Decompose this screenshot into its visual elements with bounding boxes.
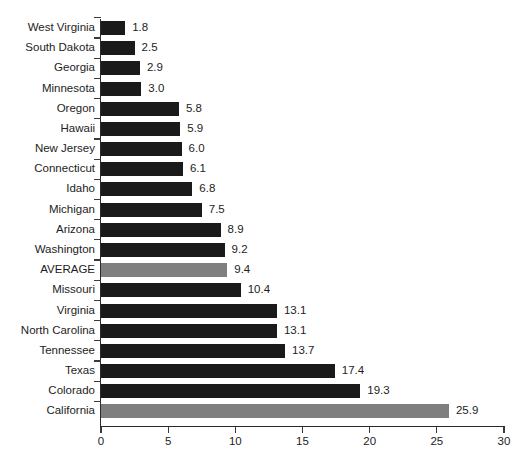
bar-chart: West Virginia1.8South Dakota2.5Georgia2.… xyxy=(0,0,531,474)
category-label: AVERAGE xyxy=(40,264,95,276)
category-label: Virginia xyxy=(57,305,95,317)
bar-value-label: 5.8 xyxy=(186,103,202,115)
bar-row: Colorado19.3 xyxy=(0,381,531,401)
bar xyxy=(101,263,227,277)
bar xyxy=(101,344,285,358)
category-label: Missouri xyxy=(52,285,95,297)
bar-row: New Jersey6.0 xyxy=(0,139,531,159)
x-axis-tick xyxy=(436,427,437,433)
x-axis-tick-label: 20 xyxy=(363,436,376,448)
category-label: Minnesota xyxy=(42,83,95,95)
bar-row: Hawaii5.9 xyxy=(0,119,531,139)
plot-area: West Virginia1.8South Dakota2.5Georgia2.… xyxy=(0,0,531,474)
bar xyxy=(101,162,183,176)
bar xyxy=(101,384,360,398)
bar-value-label: 5.9 xyxy=(187,123,203,135)
bar xyxy=(101,142,182,156)
bar-row: West Virginia1.8 xyxy=(0,18,531,38)
category-label: Arizona xyxy=(56,224,95,236)
bar-value-label: 17.4 xyxy=(342,365,364,377)
bar-value-label: 3.0 xyxy=(148,83,164,95)
bar xyxy=(101,324,277,338)
bar-row: Arizona8.9 xyxy=(0,220,531,240)
bar-value-label: 6.1 xyxy=(190,164,206,176)
bar-value-label: 13.7 xyxy=(292,345,314,357)
bar xyxy=(101,122,180,136)
bar-value-label: 13.1 xyxy=(284,305,306,317)
bar-row: Minnesota3.0 xyxy=(0,78,531,98)
bar-value-label: 2.9 xyxy=(147,63,163,75)
category-label: New Jersey xyxy=(35,143,95,155)
bar xyxy=(101,82,141,96)
category-label: Idaho xyxy=(66,184,95,196)
bar-value-label: 13.1 xyxy=(284,325,306,337)
category-label: West Virginia xyxy=(28,22,95,34)
bar-row: Tennessee13.7 xyxy=(0,341,531,361)
bar-value-label: 7.5 xyxy=(209,204,225,216)
category-label: South Dakota xyxy=(25,42,95,54)
bar xyxy=(101,41,135,55)
bar xyxy=(101,102,179,116)
category-label: Colorado xyxy=(48,385,95,397)
bar xyxy=(101,283,241,297)
bar-value-label: 8.9 xyxy=(228,224,244,236)
bar xyxy=(101,304,277,318)
category-label: Hawaii xyxy=(60,123,95,135)
category-label: Michigan xyxy=(49,204,95,216)
category-label: Connecticut xyxy=(34,164,95,176)
x-axis-tick-label: 10 xyxy=(229,436,242,448)
bar-value-label: 1.8 xyxy=(132,22,148,34)
bar-row: AVERAGE9.4 xyxy=(0,260,531,280)
bar-row: Oregon5.8 xyxy=(0,99,531,119)
bar xyxy=(101,203,202,217)
bar-value-label: 10.4 xyxy=(248,285,270,297)
category-label: California xyxy=(46,406,95,418)
bar-row: Missouri10.4 xyxy=(0,280,531,300)
category-label: Washington xyxy=(35,244,95,256)
bar xyxy=(101,404,449,418)
bar-row: California25.9 xyxy=(0,401,531,421)
bar-row: Michigan7.5 xyxy=(0,200,531,220)
x-axis-tick-label: 5 xyxy=(165,436,171,448)
x-axis-tick xyxy=(369,427,370,433)
bar-value-label: 9.4 xyxy=(234,264,250,276)
bar-row: Virginia13.1 xyxy=(0,300,531,320)
category-label: North Carolina xyxy=(21,325,95,337)
category-label: Texas xyxy=(65,365,95,377)
bar-value-label: 6.0 xyxy=(189,143,205,155)
x-axis-tick-label: 15 xyxy=(296,436,309,448)
bar xyxy=(101,21,125,35)
x-axis-tick xyxy=(503,427,504,433)
x-axis-tick xyxy=(235,427,236,433)
bar xyxy=(101,223,221,237)
category-label: Georgia xyxy=(54,63,95,75)
bar-row: Washington9.2 xyxy=(0,240,531,260)
category-label: Oregon xyxy=(57,103,95,115)
category-label: Tennessee xyxy=(39,345,95,357)
bar-row: Connecticut6.1 xyxy=(0,159,531,179)
bar-value-label: 2.5 xyxy=(142,42,158,54)
bar xyxy=(101,61,140,75)
bar-value-label: 9.2 xyxy=(232,244,248,256)
bar-row: Georgia2.9 xyxy=(0,58,531,78)
x-axis-tick xyxy=(302,427,303,433)
x-axis-tick-label: 25 xyxy=(430,436,443,448)
bar xyxy=(101,364,335,378)
bar-row: Texas17.4 xyxy=(0,361,531,381)
bar-row: South Dakota2.5 xyxy=(0,38,531,58)
x-axis-tick-label: 30 xyxy=(498,436,511,448)
bar xyxy=(101,182,192,196)
bar-row: North Carolina13.1 xyxy=(0,321,531,341)
bar-value-label: 6.8 xyxy=(199,184,215,196)
bar xyxy=(101,243,225,257)
bar-value-label: 25.9 xyxy=(456,406,478,418)
x-axis-tick xyxy=(100,427,101,433)
x-axis-tick-label: 0 xyxy=(98,436,104,448)
y-axis-tick xyxy=(94,17,101,18)
bar-value-label: 19.3 xyxy=(367,385,389,397)
x-axis-tick xyxy=(168,427,169,433)
bar-row: Idaho6.8 xyxy=(0,179,531,199)
